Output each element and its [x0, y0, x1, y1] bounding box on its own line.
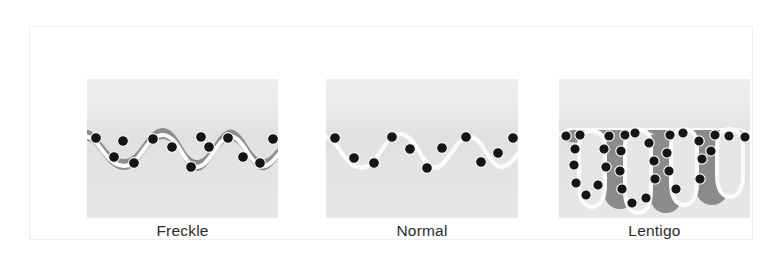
melanocyte — [204, 142, 215, 153]
melanocyte — [129, 158, 140, 169]
melanocyte — [581, 190, 591, 200]
panel-label-freckle: Freckle — [87, 222, 278, 240]
melanocyte — [694, 136, 704, 146]
melanocyte — [571, 178, 581, 188]
figure-root: Freckle — [0, 0, 781, 267]
melanocyte — [665, 130, 675, 140]
melanocyte — [671, 184, 681, 194]
melanocyte — [706, 146, 716, 156]
melanocyte — [148, 134, 159, 145]
melanocyte — [650, 174, 660, 184]
melanocyte — [616, 146, 626, 156]
melanocyte — [710, 130, 720, 140]
melanocyte — [493, 148, 504, 159]
melanocyte — [627, 198, 637, 208]
melanocyte — [369, 158, 380, 169]
melanocyte — [255, 158, 266, 169]
melanocyte — [641, 193, 651, 203]
melanocyte — [604, 131, 614, 141]
melanocyte — [196, 132, 207, 143]
melanocyte — [644, 138, 654, 148]
panel-label-normal: Normal — [326, 222, 518, 240]
melanocyte — [186, 162, 197, 173]
melanocyte — [620, 130, 630, 140]
melanocyte — [109, 152, 120, 163]
melanocyte — [662, 148, 672, 158]
tissue-background — [326, 79, 518, 218]
panel-lentigo: Lentigo — [559, 79, 750, 218]
figure-frame: Freckle — [29, 26, 753, 240]
melanocyte — [238, 152, 249, 163]
melanocyte — [405, 144, 416, 155]
melanocyte — [268, 134, 278, 145]
panel-normal: Normal — [326, 79, 518, 218]
melanocyte — [649, 156, 659, 166]
melanocyte — [593, 180, 603, 190]
melanocyte — [223, 133, 234, 144]
melanocyte — [569, 160, 579, 170]
melanocyte — [617, 184, 627, 194]
melanocyte — [615, 166, 625, 176]
melanocyte — [664, 166, 674, 176]
normal-illustration — [326, 79, 518, 218]
melanocyte — [167, 142, 178, 153]
melanocyte — [575, 130, 585, 140]
melanocyte — [570, 144, 580, 154]
melanocyte — [118, 136, 129, 147]
panel-label-lentigo: Lentigo — [559, 222, 750, 240]
melanocyte — [437, 143, 448, 154]
melanocyte — [330, 133, 341, 144]
melanocyte — [678, 128, 688, 138]
melanocyte — [697, 154, 707, 164]
melanocyte — [422, 163, 433, 174]
panel-freckle: Freckle — [87, 79, 278, 218]
melanocyte — [476, 157, 487, 168]
freckle-illustration — [87, 79, 278, 218]
melanocyte — [740, 132, 750, 142]
melanocyte — [387, 132, 398, 143]
melanocyte — [630, 128, 640, 138]
melanocyte — [599, 144, 609, 154]
lentigo-illustration — [559, 79, 750, 218]
melanocyte — [508, 133, 518, 144]
melanocyte — [724, 131, 734, 141]
melanocyte — [601, 162, 611, 172]
melanocyte — [561, 131, 571, 141]
melanocyte — [695, 174, 705, 184]
melanocyte — [461, 132, 472, 143]
melanocyte — [349, 153, 360, 164]
melanocyte — [91, 133, 102, 144]
